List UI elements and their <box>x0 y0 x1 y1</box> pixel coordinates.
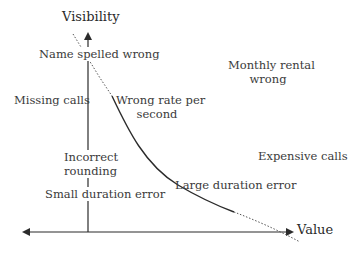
label-wrong-rate-line1: Wrong rate per <box>116 93 198 107</box>
curve-dotted-bottom <box>234 212 300 242</box>
label-incorrect-rounding-line1: Incorrect <box>64 150 114 164</box>
label-incorrect-rounding-line2: rounding <box>64 164 114 178</box>
label-incorrect-rounding: Incorrect rounding <box>63 150 115 178</box>
label-missing-calls: Missing calls <box>14 93 90 107</box>
y-axis-label: Visibility <box>62 10 116 24</box>
label-wrong-rate-line2: second <box>116 107 198 121</box>
diagram-graphics <box>0 0 349 254</box>
label-monthly-rental-wrong: Monthly rental wrong <box>228 58 308 86</box>
label-monthly-rental-line2: wrong <box>228 72 308 86</box>
label-small-duration-error: Small duration error <box>44 187 166 201</box>
curve-dotted-top <box>73 34 112 96</box>
label-expensive-calls: Expensive calls <box>258 149 348 163</box>
label-large-duration-error: Large duration error <box>175 178 296 192</box>
label-monthly-rental-line1: Monthly rental <box>228 58 308 72</box>
label-wrong-rate-per-second: Wrong rate per second <box>116 93 198 121</box>
x-axis-label: Value <box>297 223 333 237</box>
label-name-spelled-wrong: Name spelled wrong <box>38 47 161 61</box>
visibility-value-diagram: Visibility Value Name spelled wrong Mont… <box>0 0 349 254</box>
